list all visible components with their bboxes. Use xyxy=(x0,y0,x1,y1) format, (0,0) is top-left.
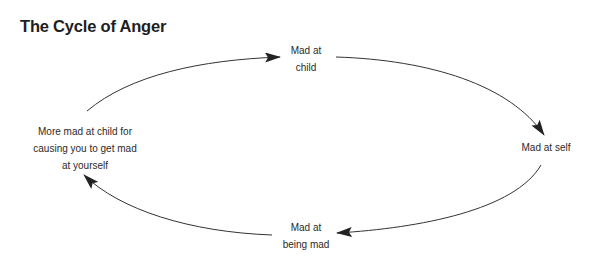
node-mad-at-child: Mad at child xyxy=(276,42,336,76)
arrow-more-mad-to-child xyxy=(87,57,280,111)
node-label-line: Mad at xyxy=(276,42,336,59)
arrow-child-to-self xyxy=(336,57,544,135)
node-label-line: Mad at xyxy=(276,219,336,236)
node-label-line: at yourself xyxy=(20,157,150,174)
node-more-mad-at-child: More mad at child for causing you to get… xyxy=(20,123,150,174)
arrow-being-mad-to-more-mad xyxy=(84,175,272,235)
node-mad-at-self: Mad at self xyxy=(512,139,580,156)
node-label-line: being mad xyxy=(276,236,336,253)
node-label-line: child xyxy=(276,59,336,76)
node-label-line: Mad at self xyxy=(512,139,580,156)
node-mad-at-being-mad: Mad at being mad xyxy=(276,219,336,253)
node-label-line: More mad at child for xyxy=(20,123,150,140)
node-label-line: causing you to get mad xyxy=(20,140,150,157)
arrow-self-to-being-mad xyxy=(337,165,541,233)
